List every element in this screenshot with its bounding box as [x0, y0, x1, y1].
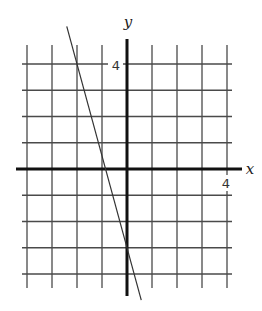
coordinate-graph: 4 4 y x	[0, 0, 262, 311]
x-tick-label-4: 4	[222, 176, 230, 191]
y-axis-label: y	[123, 13, 133, 31]
y-tick-label-4: 4	[112, 58, 120, 73]
x-axis-label: x	[246, 160, 255, 178]
